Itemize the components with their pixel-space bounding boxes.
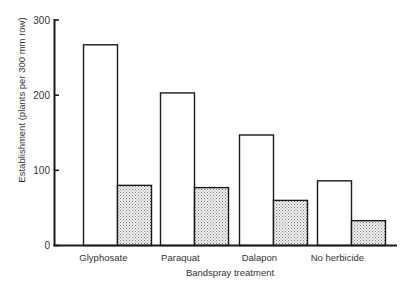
x-label-no-herbicide: No herbicide bbox=[311, 252, 364, 263]
y-tick-label: 300 bbox=[33, 15, 50, 26]
bar-no-herbicide-open bbox=[318, 181, 352, 246]
bars-group bbox=[84, 45, 386, 246]
bar-dalapon-stippled bbox=[274, 200, 308, 245]
x-label-glyphosate: Glyphosate bbox=[79, 252, 127, 263]
y-tick-label: 200 bbox=[33, 90, 50, 101]
bar-dalapon-open bbox=[240, 135, 274, 245]
bar-paraquat-stippled bbox=[195, 188, 229, 246]
y-axis-title: Establishment (plants per 300 mm row) bbox=[16, 17, 27, 182]
x-label-dalapon: Dalapon bbox=[242, 252, 277, 263]
x-label-paraquat: Paraquat bbox=[161, 252, 200, 263]
bar-paraquat-open bbox=[161, 93, 195, 246]
bar-no-herbicide-stippled bbox=[352, 221, 386, 246]
x-category-labels: GlyphosateParaquatDalaponNo herbicide bbox=[79, 252, 364, 263]
y-tick-label: 0 bbox=[44, 240, 50, 251]
bar-glyphosate-stippled bbox=[118, 185, 152, 245]
y-tick-label: 100 bbox=[33, 165, 50, 176]
x-axis-title: Bandspray treatment bbox=[186, 267, 275, 278]
bar-glyphosate-open bbox=[84, 45, 118, 246]
bar-chart: 0100200300 GlyphosateParaquatDalaponNo h… bbox=[0, 0, 411, 281]
